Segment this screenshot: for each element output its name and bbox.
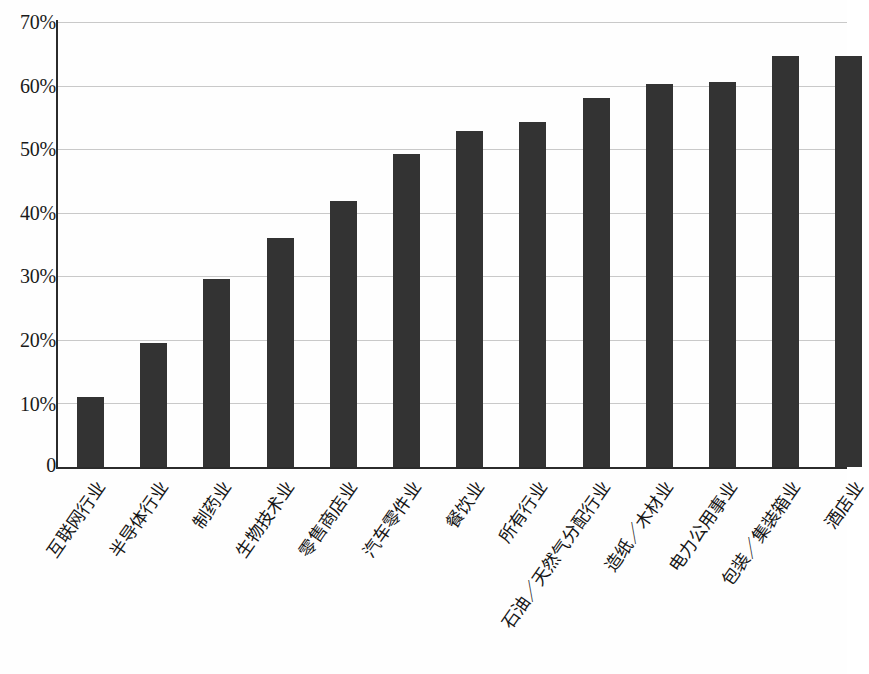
x-axis-label-text: 生物技术业 [234,479,299,561]
x-axis-label-text: 互联网行业 [44,479,109,561]
y-tick-60: 60% [4,76,56,96]
x-axis-label-text: 半导体行业 [107,479,172,561]
x-axis-category-labels: 互联网行业半导体行业制药业生物技术业零售商店业汽车零件业餐饮业所有行业石油／天然… [0,467,847,674]
x-axis-label-text: 酒店业 [823,479,867,532]
x-axis-label-text: 汽车零件业 [360,479,425,561]
y-tick-50: 50% [4,139,56,159]
bar [267,238,294,467]
bar [519,122,546,467]
x-axis-label-text: 制药业 [191,479,235,532]
bar [77,397,104,467]
y-tick-70: 70% [4,12,56,32]
y-tick-30: 30% [4,266,56,286]
x-axis-label-text: 餐饮业 [444,479,488,532]
y-tick-20: 20% [4,330,56,350]
bar [583,98,610,467]
y-tick-10: 10% [4,394,56,414]
y-tick-40: 40% [4,203,56,223]
x-axis-label-text: 所有行业 [497,479,551,546]
x-axis-label-text: 零售商店业 [297,479,362,561]
bar [140,343,167,467]
